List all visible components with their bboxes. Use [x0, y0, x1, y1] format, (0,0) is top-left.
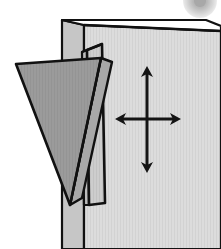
technical-illustration [0, 0, 221, 249]
figure-canvas [0, 0, 221, 249]
